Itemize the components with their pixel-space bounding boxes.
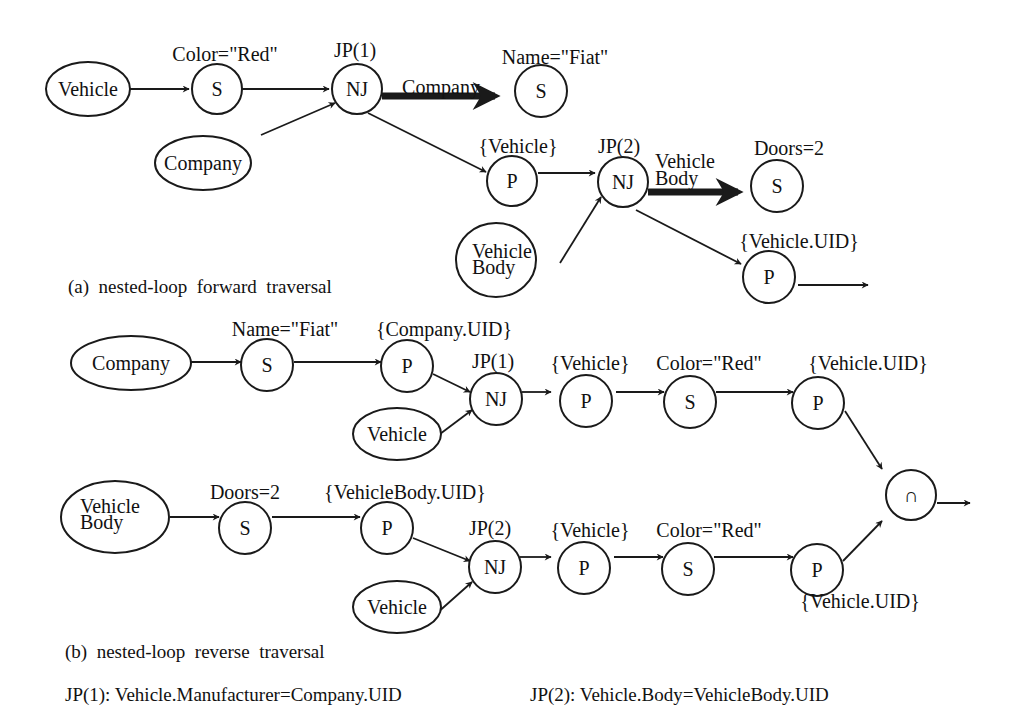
relation-company-label: Company bbox=[164, 152, 242, 175]
part-a-forward-traversal: Vehicle S Color="Red" NJ JP(1) Company C… bbox=[46, 39, 868, 303]
select-label: S bbox=[261, 354, 272, 376]
select-label: S bbox=[211, 78, 222, 100]
edge-company-to-nj1 bbox=[261, 103, 335, 135]
nj-label: NJ bbox=[612, 171, 634, 193]
intersect-icon: ∩ bbox=[904, 484, 918, 506]
project-label: P bbox=[763, 266, 774, 288]
project-label: P bbox=[812, 392, 823, 414]
edge-nj2-to-project-uid bbox=[636, 210, 741, 264]
select-predicate-label: Color="Red" bbox=[656, 519, 761, 541]
project-label: P bbox=[506, 170, 517, 192]
select-predicate-label: Color="Red" bbox=[656, 352, 761, 374]
select-predicate-label: Color="Red" bbox=[172, 43, 277, 65]
caption-part-b: (b) nested-loop reverse traversal bbox=[65, 641, 325, 663]
edge-to-intersect bbox=[845, 411, 882, 469]
relation-vehicle-label: Vehicle bbox=[367, 423, 427, 445]
edge-nj1-to-project bbox=[368, 113, 486, 172]
project-label: P bbox=[811, 559, 822, 581]
edge bbox=[433, 374, 470, 392]
footnote-jp2: JP(2): Vehicle.Body=VehicleBody.UID bbox=[530, 684, 829, 706]
select-label: S bbox=[535, 80, 546, 102]
relation-vehicle-body-label-line2: Body bbox=[472, 256, 515, 279]
select-label: S bbox=[771, 175, 782, 197]
footnote-jp1: JP(1): Vehicle.Manufacturer=Company.UID bbox=[65, 684, 402, 706]
project-attributes-label: {Vehicle} bbox=[550, 519, 629, 541]
select-predicate-label: Doors=2 bbox=[754, 137, 824, 159]
project-label: P bbox=[578, 557, 589, 579]
select-predicate-label: Name="Fiat" bbox=[232, 318, 338, 340]
edge-to-intersect bbox=[843, 521, 882, 561]
join-predicate-label: JP(2) bbox=[598, 135, 640, 158]
select-predicate-label: Doors=2 bbox=[210, 481, 280, 503]
relation-vehicle-body-label-line2: Body bbox=[80, 511, 123, 534]
edge-label-company: Company bbox=[402, 76, 480, 99]
select-label: S bbox=[684, 391, 695, 413]
relation-company-label: Company bbox=[92, 352, 170, 375]
query-plan-diagram: Vehicle S Color="Red" NJ JP(1) Company C… bbox=[0, 0, 1015, 716]
caption-part-a: (a) nested-loop forward traversal bbox=[68, 276, 332, 298]
project-attributes-label: {Vehicle.UID} bbox=[808, 352, 928, 374]
project-attributes-label: {Vehicle.UID} bbox=[739, 230, 859, 252]
project-attributes-label: {Vehicle} bbox=[550, 352, 629, 374]
relation-vehicle-label: Vehicle bbox=[58, 78, 118, 100]
edge bbox=[413, 538, 470, 561]
select-predicate-label: Name="Fiat" bbox=[502, 46, 608, 68]
select-label: S bbox=[239, 517, 250, 539]
join-predicate-label: JP(1) bbox=[472, 350, 514, 373]
select-label: S bbox=[682, 558, 693, 580]
project-label: P bbox=[401, 355, 412, 377]
nj-label: NJ bbox=[346, 78, 368, 100]
relation-vehicle-label: Vehicle bbox=[367, 596, 427, 618]
edge-label-body: Body bbox=[655, 167, 698, 190]
project-label: P bbox=[580, 390, 591, 412]
project-attributes-label: {Vehicle} bbox=[478, 135, 557, 157]
project-label: P bbox=[381, 517, 392, 539]
nj-label: NJ bbox=[484, 556, 506, 578]
nj-label: NJ bbox=[485, 388, 507, 410]
edge-vbody-to-nj2 bbox=[560, 197, 601, 263]
part-b-reverse-traversal: Company S Name="Fiat" P {Company.UID} NJ… bbox=[61, 318, 970, 663]
project-attributes-label: {VehicleBody.UID} bbox=[324, 481, 486, 504]
join-predicate-label: JP(2) bbox=[469, 517, 511, 540]
project-attributes-label: {Company.UID} bbox=[376, 318, 512, 341]
project-attributes-label: {Vehicle.UID} bbox=[800, 590, 920, 612]
join-predicate-label: JP(1) bbox=[334, 39, 376, 62]
